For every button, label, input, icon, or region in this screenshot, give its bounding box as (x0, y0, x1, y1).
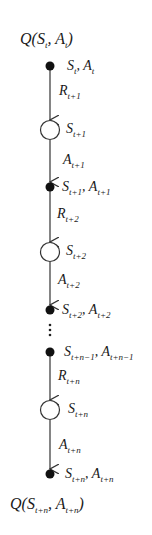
state-node-3 (41, 243, 60, 262)
ellipsis-dot (49, 329, 52, 332)
action-node-5 (46, 348, 55, 357)
action-node-0 (46, 62, 55, 71)
edge-label-0: Rt+1 (59, 84, 81, 101)
action-node-4 (46, 306, 55, 315)
edge-label-5: At+n (59, 438, 81, 455)
node-label-6: St+n (68, 402, 88, 419)
node-label-7: St+n, At+n (65, 467, 113, 484)
q-top-label: Q(St, At) (20, 31, 73, 50)
node-label-4: St+2, At+2 (62, 303, 110, 320)
action-node-2 (46, 183, 55, 192)
action-node-7 (46, 470, 55, 479)
state-node-6 (41, 401, 60, 420)
state-node-1 (41, 121, 60, 140)
node-label-0: St, At (67, 59, 94, 76)
node-label-1: St+1 (66, 122, 86, 139)
edge-label-2: Rt+2 (57, 207, 79, 224)
edge-label-4: Rt+n (58, 369, 80, 386)
ellipsis-dot (49, 324, 52, 327)
edge-label-3: At+2 (58, 273, 80, 290)
node-label-2: St+1, At+1 (62, 180, 110, 197)
edge-label-1: At+1 (63, 153, 85, 170)
node-label-5: St+n−1, At+n−1 (64, 345, 134, 362)
node-label-3: St+2 (66, 244, 86, 261)
q-bottom-label: Q(St+n, At+n) (10, 496, 84, 515)
ellipsis-dot (49, 334, 52, 337)
